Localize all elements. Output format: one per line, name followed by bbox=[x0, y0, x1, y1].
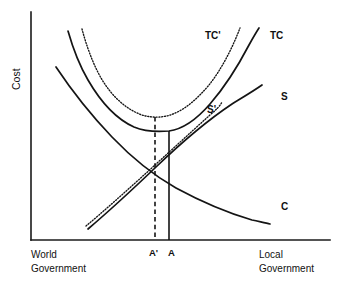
curve-tc bbox=[68, 28, 259, 132]
tick-label-a: A bbox=[168, 247, 175, 258]
cost-government-chart: TC' TC S' S C A' A World Government Loca… bbox=[0, 0, 344, 286]
x-axis-left-caption-line2: Government bbox=[31, 263, 86, 274]
y-axis-title: Cost bbox=[10, 68, 22, 90]
x-axis-right-caption-line1: Local bbox=[259, 249, 283, 260]
curve-s bbox=[88, 85, 262, 229]
curve-c bbox=[56, 67, 270, 224]
curve-s-prime bbox=[86, 102, 222, 226]
label-s-prime: S' bbox=[207, 104, 216, 115]
label-s: S bbox=[281, 91, 288, 102]
x-axis-left-caption-line1: World bbox=[31, 249, 57, 260]
curve-tc-prime bbox=[82, 28, 240, 117]
figure-canvas: TC' TC S' S C A' A World Government Loca… bbox=[0, 0, 344, 286]
x-axis-right-caption-line2: Government bbox=[259, 263, 314, 274]
label-c: C bbox=[281, 201, 288, 212]
tick-label-a-prime: A' bbox=[149, 247, 158, 258]
label-tc: TC bbox=[270, 30, 283, 41]
label-tc-prime: TC' bbox=[205, 30, 221, 41]
